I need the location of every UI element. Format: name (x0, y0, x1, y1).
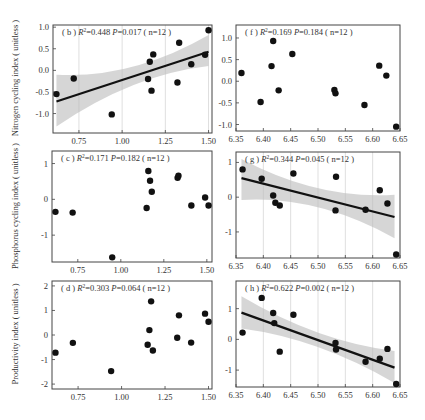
confidence-band (56, 35, 208, 127)
y-tick-label: -2 (41, 379, 48, 389)
y-tick-label: 1.0 (38, 22, 49, 32)
panel-b: 0.751.001.251.50-1.0-0.50.00.51.0( b ) R… (36, 22, 216, 146)
y-tick-label: -1.0 (219, 120, 232, 130)
data-point (333, 346, 339, 352)
data-point (69, 209, 75, 215)
data-point (71, 75, 77, 81)
x-tick-label: 6.55 (338, 134, 353, 144)
data-point (108, 368, 114, 374)
data-point (202, 194, 208, 200)
y-tick-label: 1.0 (221, 33, 232, 43)
data-point (52, 349, 58, 355)
panel-stats: ( d ) R2=0.303 P=0.064 ( n=12 ) (61, 283, 170, 293)
panel-g: 6.356.406.456.506.556.606.65-101( g ) R2… (225, 152, 408, 271)
x-tick-label: 6.40 (256, 390, 271, 400)
y-tick-label: 1 (44, 159, 48, 169)
data-point (149, 189, 155, 195)
data-point (270, 192, 276, 198)
data-point (268, 63, 274, 69)
data-point (383, 72, 389, 78)
x-tick-label: 6.35 (229, 134, 244, 144)
x-tick-label: 1.25 (158, 136, 173, 146)
data-point (205, 319, 211, 325)
y-tick-label: 0 (228, 192, 232, 202)
x-tick-label: 6.35 (229, 390, 244, 400)
y-tick-label: 0 (44, 330, 48, 340)
data-point (148, 298, 154, 304)
data-point (377, 187, 383, 193)
x-tick-label: 6.60 (365, 261, 380, 271)
y-tick-label: 1 (228, 304, 232, 314)
x-tick-label: 1.50 (201, 392, 216, 402)
y-tick-label: 0.5 (38, 44, 49, 54)
data-point (239, 329, 245, 335)
data-point (393, 381, 399, 387)
data-point (332, 90, 338, 96)
data-point (109, 111, 115, 117)
data-point (188, 339, 194, 345)
data-point (205, 27, 211, 33)
x-tick-label: 1.00 (115, 136, 130, 146)
data-point (109, 254, 115, 260)
data-point (143, 205, 149, 211)
x-tick-label: 6.40 (256, 134, 271, 144)
data-point (174, 79, 180, 85)
data-point (175, 173, 181, 179)
y-tick-label: 0 (228, 334, 232, 344)
y-tick-label: 0.0 (38, 65, 49, 75)
data-point (70, 340, 76, 346)
y-tick-label: -1 (41, 230, 48, 240)
data-point (362, 206, 368, 212)
data-point (393, 251, 399, 257)
panel-stats: ( c ) R2=0.171 P=0.182 ( n=12 ) (61, 153, 170, 163)
panel-d: 0.751.001.251.50-2-1012( d ) R2=0.303 P=… (41, 281, 216, 402)
panel-c: 0.751.001.251.50-101( c ) R2=0.171 P=0.1… (41, 151, 214, 275)
y-tick-label: 1 (44, 305, 48, 315)
data-point (384, 200, 390, 206)
data-point (258, 176, 264, 182)
data-point (289, 51, 295, 57)
data-point (52, 209, 58, 215)
figure: 0.751.001.251.50-1.0-0.50.00.51.0( b ) R… (0, 0, 425, 420)
x-tick-label: 6.65 (393, 261, 408, 271)
data-point (376, 62, 382, 68)
x-tick-label: 1.50 (199, 265, 214, 275)
panel-h: 6.356.406.456.506.556.606.65-101( h ) R2… (225, 281, 408, 400)
y-tick-label: -0.5 (36, 87, 49, 97)
data-point (176, 40, 182, 46)
data-point (150, 51, 156, 57)
x-tick-label: 6.65 (393, 134, 408, 144)
x-tick-label: 6.45 (283, 390, 298, 400)
panel-stats: ( h ) R2=0.622 P=0.002 ( n=12 ) (245, 283, 354, 293)
plot-frame (236, 25, 400, 131)
x-tick-label: 6.65 (393, 390, 408, 400)
x-tick-label: 1.25 (156, 265, 171, 275)
data-point (202, 52, 208, 58)
y-tick-label: 2 (44, 281, 48, 291)
data-point (146, 327, 152, 333)
data-point (202, 310, 208, 316)
x-tick-label: 1.00 (114, 392, 129, 402)
y-axis-label-d: Productivity index ( unitless ) (10, 254, 20, 414)
data-point (290, 170, 296, 176)
x-tick-label: 6.50 (311, 134, 326, 144)
x-tick-label: 1.00 (113, 265, 128, 275)
data-point (150, 347, 156, 353)
data-point (270, 38, 276, 44)
data-point (148, 87, 154, 93)
data-point (258, 295, 264, 301)
x-tick-label: 6.55 (338, 261, 353, 271)
data-point (257, 99, 263, 105)
x-tick-label: 1.50 (201, 136, 216, 146)
y-tick-label: -1 (225, 365, 232, 375)
data-point (277, 202, 283, 208)
y-tick-label: -0.5 (219, 98, 232, 108)
x-tick-label: 6.55 (338, 390, 353, 400)
x-tick-label: 0.75 (70, 265, 85, 275)
x-tick-label: 6.60 (365, 390, 380, 400)
data-point (145, 168, 151, 174)
data-point (188, 61, 194, 67)
data-point (277, 348, 283, 354)
data-point (147, 178, 153, 184)
data-point (290, 312, 296, 318)
